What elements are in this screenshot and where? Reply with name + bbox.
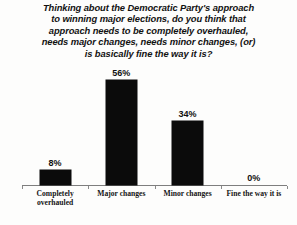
bar	[172, 121, 203, 185]
category-label: Major changes	[88, 189, 154, 198]
bar-value-label: 0%	[234, 173, 274, 183]
chart-title: Thinking about the Democratic Party's ap…	[8, 2, 289, 59]
bar-value-label: 8%	[35, 158, 75, 168]
bar	[40, 170, 71, 185]
chart-title-line: to winning major elections, do you think…	[8, 13, 289, 24]
bar	[106, 80, 137, 185]
category-label: Completely overhauled	[22, 189, 88, 207]
category-label: Minor changes	[155, 189, 221, 198]
plot-area: 8%56%34%0%	[0, 72, 297, 186]
category-label: Fine the way it is	[221, 189, 287, 198]
chart-title-line: needs major changes, needs minor changes…	[8, 36, 289, 47]
bar-chart: Thinking about the Democratic Party's ap…	[0, 0, 297, 225]
chart-title-line: is basically fine the way it is?	[8, 48, 289, 59]
bar-value-label: 56%	[101, 68, 141, 78]
chart-title-line: Thinking about the Democratic Party's ap…	[8, 2, 289, 13]
bar-value-label: 34%	[168, 109, 208, 119]
chart-title-line: approach needs to be completely overhaul…	[8, 25, 289, 36]
category-axis-labels: Completely overhauledMajor changesMinor …	[0, 189, 297, 217]
